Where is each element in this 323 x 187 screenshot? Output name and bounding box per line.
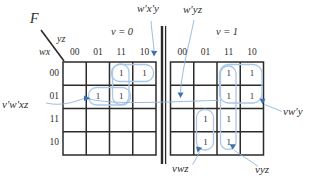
row-header: 01	[43, 92, 59, 102]
kmap-cell-value: 1	[247, 69, 257, 78]
arrow-vwpy	[260, 99, 266, 104]
map-title-v1: v = 1	[207, 27, 247, 38]
function-label: F	[30, 12, 39, 26]
leader-row01-long	[89, 99, 219, 103]
row-header: 10	[43, 138, 59, 148]
kmap-figure: F yz wx v = 0 v = 1 w′x′y w′yz v′w′xz vw…	[0, 0, 323, 187]
row-var-label: wx	[39, 47, 50, 57]
annotation-vwpy: vw′y	[283, 106, 303, 117]
column-header: 01	[197, 48, 213, 58]
kmap-cell-value: 1	[139, 69, 149, 78]
annotation-wpxpy: w′x′y	[137, 3, 159, 14]
column-header: 00	[174, 48, 190, 58]
kmap-cell-value: 1	[247, 92, 257, 101]
column-header: 10	[136, 48, 152, 58]
map-divider	[162, 26, 166, 164]
kmap-cell-value: 1	[224, 92, 234, 101]
annotation-vpwpxz: v′w′xz	[2, 99, 28, 110]
annotation-wpyz: w′yz	[183, 4, 202, 15]
map-title-v0: v = 0	[102, 27, 142, 38]
kmap-cell-value: 1	[93, 92, 103, 101]
column-header: 00	[67, 48, 83, 58]
column-header: 01	[90, 48, 106, 58]
col-var-label: yz	[57, 34, 65, 44]
kmap-cell-value: 1	[200, 138, 210, 147]
column-header: 10	[244, 48, 260, 58]
kmap-cell-value: 1	[224, 138, 234, 147]
kmap-cell-value: 1	[224, 69, 234, 78]
annotation-vwz: vwz	[172, 163, 189, 174]
kmap-cell-value: 1	[116, 92, 126, 101]
annotation-vyz: vyz	[255, 164, 269, 175]
column-header: 11	[221, 48, 237, 58]
row-header: 00	[43, 69, 59, 79]
arrow-wpyz	[178, 93, 184, 99]
leader-vwpy	[265, 105, 283, 112]
row-header: 11	[43, 115, 59, 125]
kmap-cell-value: 1	[224, 115, 234, 124]
kmap-cell-value: 1	[200, 115, 210, 124]
kmap-cell-value: 1	[116, 69, 126, 78]
leader-wpxpy	[151, 21, 154, 50]
column-header: 11	[113, 48, 129, 58]
